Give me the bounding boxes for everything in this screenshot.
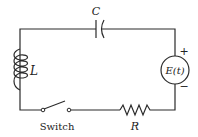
switch-label: Switch bbox=[40, 121, 75, 132]
capacitor-label: C bbox=[92, 5, 101, 18]
resistor-symbol bbox=[120, 84, 175, 115]
top-wire-left bbox=[20, 29, 96, 90]
inductor-symbol bbox=[14, 49, 28, 90]
inductor-label: L bbox=[29, 64, 38, 78]
rlc-circuit-diagram: C L Switch R E(t) + − bbox=[0, 0, 198, 137]
resistor-label: R bbox=[130, 120, 139, 133]
voltage-source-label: E(t) bbox=[164, 65, 184, 76]
minus-sign: − bbox=[179, 80, 188, 93]
switch-symbol bbox=[41, 101, 71, 112]
plus-sign: + bbox=[179, 45, 188, 58]
left-bottom-wire bbox=[20, 90, 41, 110]
top-wire-right bbox=[101, 29, 175, 56]
